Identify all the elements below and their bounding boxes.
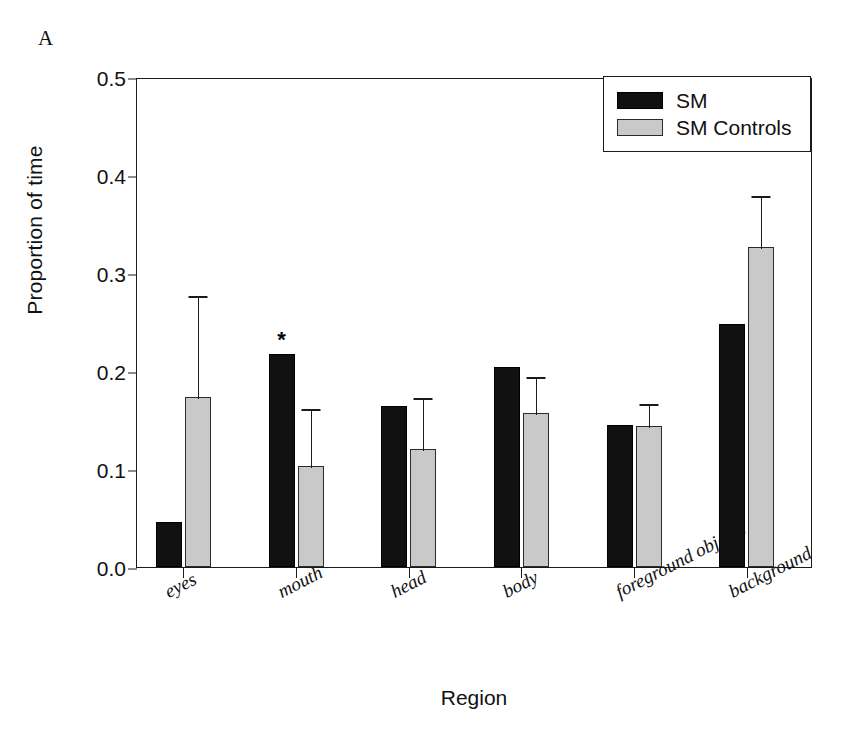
y-axis-title: Proportion of time (23, 20, 47, 440)
y-tick-mark (128, 79, 137, 80)
x-axis-title: Region (136, 686, 812, 710)
y-tick-label: 0.5 (97, 67, 126, 91)
error-bar-stem (423, 398, 424, 451)
error-bar-cap (639, 404, 658, 406)
bar-sm-controls-eyes (185, 397, 211, 567)
error-bar-stem (198, 296, 199, 400)
legend: SMSM Controls (603, 76, 811, 152)
legend-item: SM Controls (617, 114, 792, 141)
x-tick-label: head (387, 566, 430, 602)
bar-sm-body (494, 367, 520, 567)
error-bar-stem (761, 196, 762, 249)
error-bar-stem (649, 404, 650, 428)
bar-sm-controls-body (523, 413, 549, 567)
y-tick-mark (128, 275, 137, 276)
legend-swatch-sm (617, 92, 663, 109)
y-tick-label: 0.4 (97, 165, 126, 189)
y-tick-label: 0.0 (97, 557, 126, 581)
bar-sm-head (381, 406, 407, 567)
bar-sm-background (719, 324, 745, 567)
y-tick-mark (128, 373, 137, 374)
y-tick-label: 0.3 (97, 263, 126, 287)
legend-label: SM Controls (676, 116, 792, 140)
legend-label: SM (676, 89, 708, 113)
y-tick-mark (128, 177, 137, 178)
bar-sm-mouth (269, 354, 295, 567)
error-bar-cap (752, 196, 771, 198)
figure-panel-a: A Proportion of time 0.00.10.20.30.40.5 … (0, 0, 855, 748)
error-bar-stem (536, 377, 537, 415)
error-bar-cap (188, 296, 207, 298)
plot-area: 0.00.10.20.30.40.5 eyesmouthheadbodyfore… (136, 78, 812, 568)
error-bar-cap (526, 377, 545, 379)
y-tick-mark (128, 471, 137, 472)
y-tick-label: 0.1 (97, 459, 126, 483)
y-tick-mark (128, 569, 137, 570)
legend-swatch-ctrl (617, 119, 663, 136)
bar-sm-controls-head (410, 449, 436, 567)
x-tick-label: body (499, 566, 542, 602)
bar-sm-controls-background (748, 247, 774, 567)
y-tick-label: 0.2 (97, 361, 126, 385)
bar-sm-foreground-objects (607, 425, 633, 567)
bar-sm-eyes (156, 522, 182, 567)
significance-marker: * (277, 329, 286, 351)
error-bar-cap (414, 398, 433, 400)
x-tick-label: mouth (274, 561, 326, 602)
bar-sm-controls-foreground-objects (636, 426, 662, 567)
x-tick-label: eyes (161, 568, 200, 602)
bar-sm-controls-mouth (298, 466, 324, 567)
error-bar-stem (311, 409, 312, 468)
error-bar-cap (301, 409, 320, 411)
legend-item: SM (617, 87, 792, 114)
